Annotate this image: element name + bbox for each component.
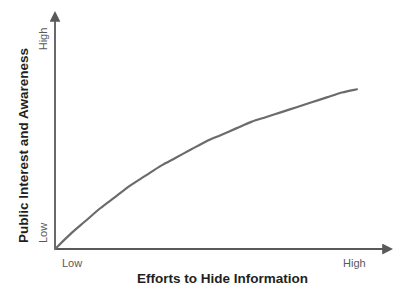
- x-axis-tick-low: Low: [62, 258, 82, 269]
- chart-figure: Public Interest and Awareness Efforts to…: [0, 0, 408, 291]
- y-axis-tick-high: High: [38, 22, 50, 56]
- data-curve: [55, 89, 357, 249]
- x-axis-tick-high: High: [343, 258, 366, 269]
- y-axis-title: Public Interest and Awareness: [17, 0, 35, 291]
- x-axis-title: Efforts to Hide Information: [55, 272, 390, 286]
- chart-plot-area: [0, 0, 408, 291]
- y-axis-tick-low: Low: [38, 217, 50, 249]
